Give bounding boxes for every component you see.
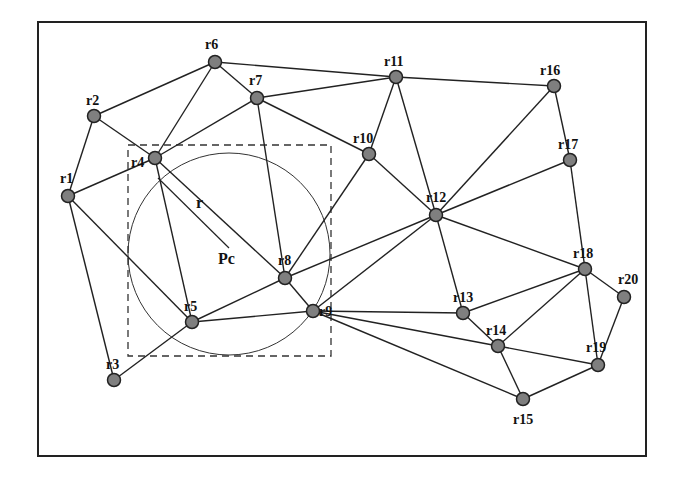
edge-r12-r16 [436, 86, 554, 215]
node-label: r16 [540, 63, 560, 78]
node-marker [279, 272, 292, 285]
radius-label: r [196, 194, 203, 211]
node-marker [390, 71, 403, 84]
edge-r2-r4 [94, 116, 155, 158]
center-label: Pc [218, 250, 235, 267]
node-marker [108, 374, 121, 387]
node-marker [149, 152, 162, 165]
node-marker [88, 110, 101, 123]
node-r9: r9 [307, 304, 333, 319]
node-group: r1r2r3r4r5r6r7r8r9r10r11r12r13r14r15r16r… [60, 37, 638, 427]
node-label: r5 [184, 299, 197, 314]
node-marker [579, 263, 592, 276]
node-label: r4 [131, 155, 144, 170]
edge-r12-r18 [436, 215, 585, 269]
node-marker [457, 307, 470, 320]
node-marker [618, 291, 631, 304]
node-marker [363, 148, 376, 161]
node-r14: r14 [486, 323, 506, 353]
edge-r9-r14 [313, 311, 498, 346]
edge-r8-r12 [285, 215, 436, 278]
edge-r5-r3 [114, 322, 192, 380]
edge-r4-r5 [155, 158, 192, 322]
node-marker [186, 316, 199, 329]
edge-r11-r16 [396, 77, 554, 86]
node-r12: r12 [426, 190, 446, 222]
node-marker [564, 154, 577, 167]
edge-r2-r6 [94, 62, 215, 116]
node-label: r7 [249, 73, 262, 88]
node-r17: r17 [558, 137, 578, 167]
node-r6: r6 [205, 37, 222, 69]
node-label: r3 [106, 357, 119, 372]
node-r1: r1 [60, 171, 75, 203]
node-label: r12 [426, 190, 446, 205]
node-marker [430, 209, 443, 222]
node-label: r14 [486, 323, 506, 338]
edge-r14-r19 [498, 346, 598, 365]
node-label: r1 [60, 171, 73, 186]
edge-r8-r10 [285, 154, 369, 278]
edge-r14-r15 [498, 346, 523, 399]
network-diagram: r1r2r3r4r5r6r7r8r9r10r11r12r13r14r15r16r… [0, 0, 678, 483]
node-marker [492, 340, 505, 353]
node-label: r2 [86, 93, 99, 108]
node-r16: r16 [540, 63, 561, 93]
node-r5: r5 [184, 299, 199, 329]
node-r20: r20 [618, 272, 639, 304]
node-r10: r10 [353, 131, 376, 161]
node-label: r8 [278, 253, 291, 268]
node-r15: r15 [513, 393, 533, 428]
edge-r13-r18 [463, 269, 585, 313]
node-label: r20 [618, 272, 638, 287]
edge-r1-r3 [68, 196, 114, 380]
edge-r4-r6 [155, 62, 215, 158]
node-marker [548, 80, 561, 93]
node-r18: r18 [573, 246, 593, 276]
radius-line [158, 178, 229, 248]
node-marker [209, 56, 222, 69]
node-marker [62, 190, 75, 203]
node-r8: r8 [278, 253, 292, 285]
node-label: r6 [205, 37, 218, 52]
node-label: r15 [513, 412, 533, 427]
node-marker [307, 305, 320, 318]
node-label: r19 [586, 340, 606, 355]
node-r2: r2 [86, 93, 101, 123]
edge-r1-r5 [68, 196, 192, 322]
edge-r4-r7 [155, 98, 257, 158]
node-label: r9 [319, 304, 332, 319]
edge-r7-r8 [257, 98, 285, 278]
edge-r12-r17 [436, 160, 570, 215]
edge-r9-r13 [313, 311, 463, 313]
edge-r9-r12 [313, 215, 436, 311]
node-r7: r7 [249, 73, 264, 105]
edge-group [68, 62, 624, 399]
node-marker [517, 393, 530, 406]
node-label: r11 [384, 54, 403, 69]
node-label: r10 [353, 131, 373, 146]
edge-r19-r15 [523, 365, 598, 399]
edge-r7-r11 [257, 77, 396, 98]
edge-r10-r12 [369, 154, 436, 215]
node-label: r13 [453, 290, 473, 305]
node-r13: r13 [453, 290, 473, 320]
node-label: r18 [573, 246, 593, 261]
node-marker [251, 92, 264, 105]
node-r3: r3 [106, 357, 121, 387]
node-label: r17 [558, 137, 578, 152]
edge-r6-r11 [215, 62, 396, 77]
edge-r14-r18 [498, 269, 585, 346]
node-marker [592, 359, 605, 372]
